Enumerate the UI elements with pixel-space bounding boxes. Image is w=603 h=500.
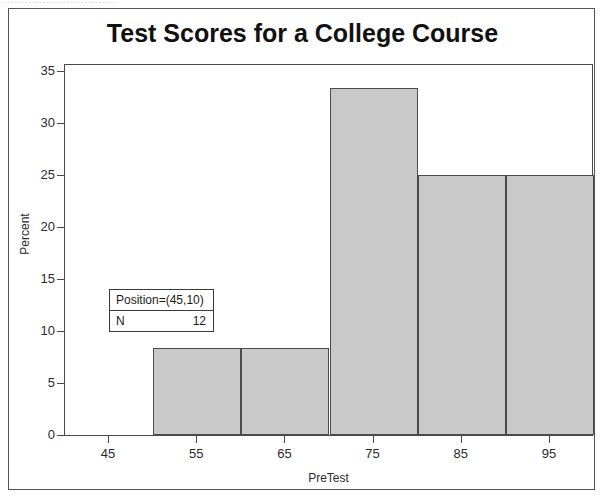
histogram-bar <box>241 348 329 435</box>
y-axis-tick <box>57 71 64 72</box>
histogram-bar <box>330 88 418 435</box>
figure-frame: Test Scores for a College Course 0510152… <box>8 8 595 490</box>
page-title: Test Scores for a College Course <box>9 19 596 48</box>
y-axis-tick <box>57 227 64 228</box>
x-axis-tick-label: 85 <box>431 446 491 461</box>
inset-position-row: Position=(45,10) <box>110 290 213 311</box>
bars-layer <box>65 71 592 435</box>
y-axis-tick-label: 35 <box>13 63 55 78</box>
y-axis-tick <box>57 175 64 176</box>
y-axis-labels: 05101520253035 <box>9 9 55 491</box>
x-axis-tick-label: 45 <box>78 446 138 461</box>
x-axis-tick-label: 95 <box>519 446 579 461</box>
y-axis-tick-label: 30 <box>13 115 55 130</box>
y-axis-title: Percent <box>18 194 32 274</box>
y-axis-tick <box>57 279 64 280</box>
x-axis-tick <box>373 436 374 443</box>
y-axis-tick-label: 5 <box>13 375 55 390</box>
x-axis-title: PreTest <box>64 471 593 485</box>
x-axis-tick <box>461 436 462 443</box>
y-axis-tick-label: 10 <box>13 323 55 338</box>
histogram-bar <box>418 175 506 435</box>
plot-area <box>64 64 593 436</box>
x-axis-tick <box>284 436 285 443</box>
top-edge-artifact-text: ................................ <box>4 0 116 5</box>
x-axis-tick <box>108 436 109 443</box>
y-axis-tick <box>57 331 64 332</box>
x-axis-tick-label: 55 <box>166 446 226 461</box>
inset-n-value: 12 <box>193 314 206 328</box>
inset-n-label: N <box>116 314 125 328</box>
y-axis-tick <box>57 383 64 384</box>
x-axis-tick <box>549 436 550 443</box>
y-axis-tick-label: 0 <box>13 427 55 442</box>
stats-inset-box: Position=(45,10) N 12 <box>109 289 214 332</box>
x-axis-tick-label: 75 <box>343 446 403 461</box>
x-axis-tick-label: 65 <box>254 446 314 461</box>
y-axis-tick <box>57 435 64 436</box>
x-axis-tick <box>196 436 197 443</box>
y-axis-tick-label: 25 <box>13 167 55 182</box>
y-axis-tick <box>57 123 64 124</box>
histogram-bar <box>153 348 241 435</box>
histogram-bar <box>506 175 594 435</box>
inset-n-row: N 12 <box>110 311 213 331</box>
top-edge-artifact: ................................ <box>0 0 603 7</box>
